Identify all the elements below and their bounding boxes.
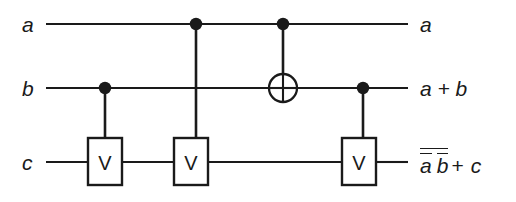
- gate-v3[interactable]: V: [342, 138, 376, 185]
- control-dot-v3[interactable]: [357, 82, 369, 94]
- quantum-circuit-diagram: V V V a b c a a + b ab +c: [0, 0, 516, 202]
- control-line-group: [105, 24, 363, 138]
- operand-2-negation-bar: b: [437, 153, 449, 177]
- output-label-a: a: [420, 14, 432, 35]
- output-label-expression: ab +c: [420, 148, 481, 176]
- expression-operator: +: [448, 155, 466, 176]
- input-label-b: b: [22, 78, 34, 99]
- gate-v1[interactable]: V: [88, 138, 122, 185]
- output-label-a-plus-b: a + b: [420, 78, 467, 99]
- control-dot-cnot[interactable]: [277, 18, 289, 30]
- control-dot-v2[interactable]: [190, 18, 202, 30]
- operand-3: c: [467, 155, 482, 176]
- input-label-c: c: [22, 152, 33, 173]
- gate-v3-label: V: [352, 152, 366, 174]
- gate-v1-label: V: [98, 152, 112, 174]
- gate-v2[interactable]: V: [174, 138, 208, 185]
- operand-1-negation-bar: a: [420, 153, 432, 177]
- boolean-expression: ab +c: [420, 148, 481, 176]
- gate-v2-label: V: [184, 152, 198, 174]
- gate-cnot[interactable]: [269, 74, 297, 102]
- control-dot-v1[interactable]: [99, 82, 111, 94]
- input-label-a: a: [22, 14, 34, 35]
- outer-negation-bar: ab: [420, 148, 448, 176]
